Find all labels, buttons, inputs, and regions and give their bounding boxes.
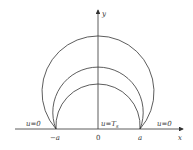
tick-label-neg-a: −a [50, 134, 60, 142]
origin-label: 0 [96, 134, 100, 142]
tick-label-a: a [138, 134, 142, 142]
diagram-canvas: y x 0 −a a u=0 u=Ts u=0 [0, 0, 193, 150]
x-axis-label: x [178, 134, 182, 142]
boundary-label-left: u=0 [26, 120, 41, 128]
y-axis-label: y [101, 10, 107, 18]
boundary-label-center: u=Ts [101, 120, 119, 129]
boundary-label-right: u=0 [157, 120, 172, 128]
